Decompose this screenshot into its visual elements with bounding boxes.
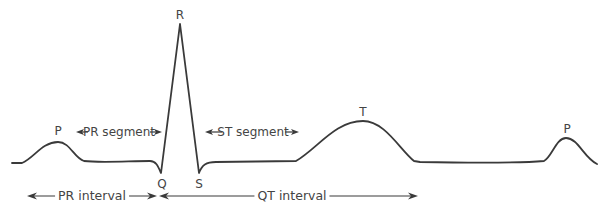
label-q-wave: Q: [157, 178, 166, 190]
label-pr-segment: PR segment: [83, 126, 155, 138]
label-s-wave: S: [195, 178, 203, 190]
label-p-wave-2: P: [563, 123, 570, 135]
label-pr-interval: PR interval: [55, 190, 129, 203]
label-r-wave: R: [176, 9, 184, 21]
label-p-wave-1: P: [54, 125, 61, 137]
ecg-trace: [12, 24, 597, 173]
label-st-segment: ST segment: [217, 126, 288, 138]
label-t-wave: T: [359, 106, 366, 118]
ecg-diagram: [0, 0, 604, 213]
label-qt-interval: QT interval: [254, 190, 329, 203]
